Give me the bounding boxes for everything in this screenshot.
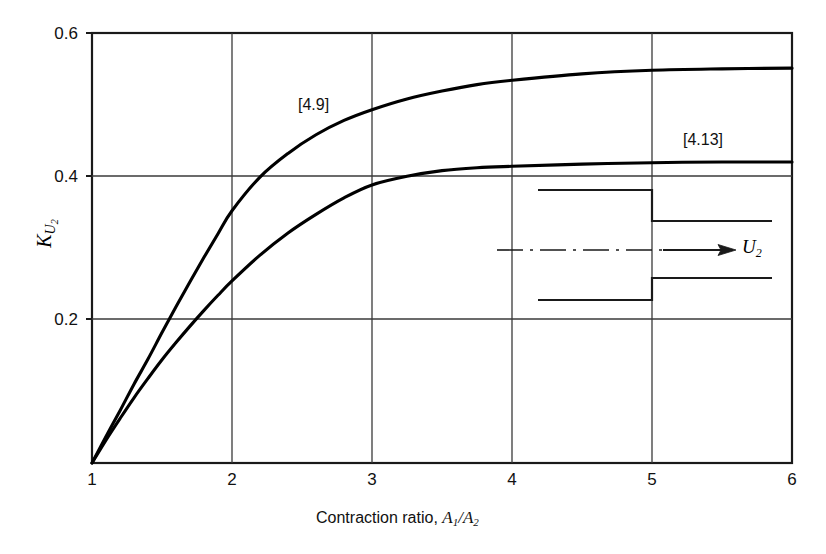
y-axis-title-sub-2: 2: [49, 219, 60, 224]
ytick-label-0.2: 0.2: [16, 310, 78, 330]
xtick-label-2: 2: [212, 470, 252, 490]
vertical-gridlines: [232, 33, 652, 463]
horizontal-gridlines: [92, 176, 792, 319]
inset-upper-wall: [538, 190, 772, 221]
x-axis-title-text: Contraction ratio,: [316, 509, 442, 526]
ytick-label-0.4: 0.4: [16, 167, 78, 187]
curve-label-4-9: [4.9]: [298, 96, 329, 114]
inset-flow-label-u: U: [742, 236, 756, 257]
x-axis-title-a1: A: [442, 508, 452, 527]
inset-lower-wall: [538, 278, 772, 300]
ytick-label-0.6: 0.6: [16, 24, 78, 44]
x-axis-title-sub2: 2: [473, 516, 479, 528]
chart-figure: 0.6 0.4 0.2 1 2 3 4 5 6 [4.9] [4.13] KU2…: [0, 0, 826, 554]
curve-4-13: [92, 162, 792, 463]
inset-flow-arrow-head: [718, 245, 736, 256]
curve-4-9: [92, 68, 792, 463]
plot-frame: [92, 33, 792, 463]
inset-flow-label: U2: [742, 236, 762, 258]
y-axis-title: KU2: [33, 204, 56, 264]
xtick-label-1: 1: [72, 470, 112, 490]
inset-flow-label-sub: 2: [756, 246, 762, 260]
xtick-label-3: 3: [352, 470, 392, 490]
y-axis-title-k: K: [33, 234, 55, 247]
x-axis-title: Contraction ratio, A1/A2: [316, 508, 479, 528]
xtick-label-4: 4: [492, 470, 532, 490]
curve-label-4-13: [4.13]: [683, 131, 723, 149]
pipe-contraction-diagram: [497, 190, 772, 300]
data-curves: [92, 68, 792, 463]
x-axis-title-a2: A: [463, 508, 473, 527]
y-axis-title-sub-u: U: [43, 224, 58, 234]
x-axis-title-sub1: 1: [453, 516, 459, 528]
xtick-label-5: 5: [632, 470, 672, 490]
plot-area: [0, 0, 826, 554]
xtick-label-6: 6: [772, 470, 812, 490]
